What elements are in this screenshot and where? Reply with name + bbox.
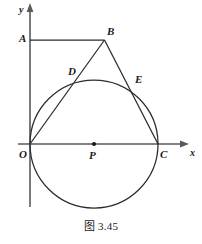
segment-ob <box>30 40 105 144</box>
point-marker-p <box>92 142 96 146</box>
point-label-d: D <box>68 66 76 77</box>
geometry-canvas <box>0 0 202 244</box>
x-axis-arrowhead <box>180 141 189 148</box>
point-label-b: B <box>107 26 114 37</box>
point-label-c: C <box>160 149 167 160</box>
point-label-o: O <box>19 149 27 160</box>
x-axis-label: x <box>190 148 195 158</box>
y-axis-arrowhead <box>27 3 34 12</box>
point-label-p: P <box>89 150 96 161</box>
geometry-figure: A B D E O P C y x 图 3.45 <box>0 0 202 244</box>
point-label-e: E <box>135 74 142 85</box>
point-label-a: A <box>19 33 26 44</box>
y-axis-label: y <box>19 5 23 15</box>
figure-caption: 图 3.45 <box>0 220 202 233</box>
segment-bc <box>105 40 159 144</box>
